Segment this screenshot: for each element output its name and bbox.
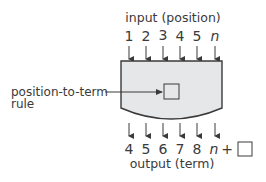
- input-value: 4: [176, 28, 185, 44]
- output-label: output (term): [130, 156, 215, 171]
- output-value: 6: [159, 141, 168, 157]
- function-machine-body: [121, 61, 222, 119]
- input-value: 1: [125, 28, 134, 44]
- input-value: 3: [159, 27, 168, 43]
- input-arrows: [129, 46, 215, 59]
- output-value: 5: [142, 141, 151, 157]
- output-blank-box: [238, 142, 252, 156]
- output-value: 8: [193, 141, 202, 157]
- input-value: 5: [193, 28, 202, 44]
- input-value-n: n: [211, 28, 220, 44]
- function-machine-diagram: input (position) 1 2 3 4 5 n position-to…: [0, 0, 266, 182]
- input-value: 2: [142, 28, 151, 44]
- output-arrows: [129, 123, 215, 136]
- input-values: 1 2 3 4 5 n: [125, 27, 220, 44]
- output-values: 4 5 6 7 8 n +: [125, 141, 233, 157]
- rule-label-line2: rule: [11, 97, 34, 111]
- input-label: input (position): [125, 10, 220, 25]
- output-value: 7: [176, 141, 185, 157]
- output-value-n: n: [210, 141, 219, 157]
- plus-sign: +: [221, 141, 233, 157]
- output-value: 4: [125, 141, 134, 157]
